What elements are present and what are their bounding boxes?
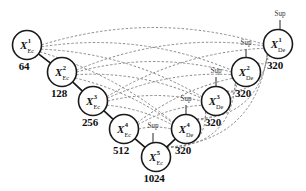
node-value-x2ec: 128 xyxy=(51,88,67,99)
chain-edge-x2ec-to-x3ec xyxy=(73,82,83,91)
skip-connection-x1ec-to-x1de xyxy=(42,27,264,44)
node-x4ec[interactable] xyxy=(110,115,139,144)
node-value-x1ec: 64 xyxy=(19,61,30,72)
chain-edge-x4ec-to-x5ec xyxy=(135,139,145,148)
supervision-label-x4de: Sup xyxy=(180,96,191,103)
node-x3de[interactable] xyxy=(202,87,231,116)
node-x5ec[interactable] xyxy=(142,143,171,172)
node-value-x5ec: 1024 xyxy=(143,173,164,184)
supervision-label-x1de: Sup xyxy=(274,11,285,18)
supervision-label-x3de: Sup xyxy=(210,68,221,75)
node-x2ec[interactable] xyxy=(48,58,77,87)
node-x1ec[interactable] xyxy=(13,31,42,60)
supervision-label-x5ec: Sup xyxy=(147,123,158,130)
node-value-x3ec: 256 xyxy=(82,117,98,128)
node-x2de[interactable] xyxy=(232,58,261,87)
node-value-x2de: 320 xyxy=(235,88,251,99)
node-x1de[interactable] xyxy=(264,30,293,59)
node-value-x3de: 320 xyxy=(205,117,221,128)
node-circle-layer xyxy=(13,30,293,172)
graph-svg xyxy=(0,0,306,191)
node-value-x4ec: 512 xyxy=(113,145,129,156)
node-x4de[interactable] xyxy=(172,115,201,144)
node-value-x4de: 320 xyxy=(175,145,191,156)
chain-edge-x1ec-to-x2ec xyxy=(38,54,50,63)
supervision-label-x2de: Sup xyxy=(240,40,251,47)
node-value-x1de: 320 xyxy=(267,60,283,71)
chain-edge-x3ec-to-x4ec xyxy=(104,111,113,120)
node-x3ec[interactable] xyxy=(79,87,108,116)
skip-connection-x2ec-to-x2de xyxy=(77,62,232,73)
diagram-canvas: SupSupSupSupSupX1Ec64X2Ec128X3Ec256X4Ec5… xyxy=(0,0,306,191)
